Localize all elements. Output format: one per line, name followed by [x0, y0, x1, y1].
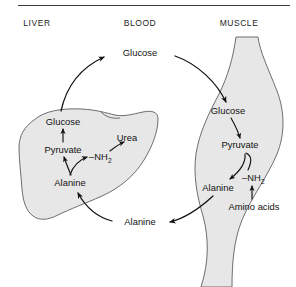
node-liver-glucose: Glucose [46, 116, 80, 127]
column-header-blood: BLOOD [124, 18, 157, 28]
muscle-shape [195, 37, 283, 287]
node-liver-urea: Urea [117, 132, 138, 143]
node-blood-alanine: Alanine [124, 216, 155, 227]
node-muscle-amino-acids: Amino acids [228, 201, 279, 212]
node-muscle-amino-group-subscript: 2 [261, 178, 265, 185]
node-liver-pyruvate: Pyruvate [45, 144, 82, 155]
node-muscle-amino-group-text: –NH [242, 172, 261, 183]
glucose-alanine-cycle-diagram: LIVER BLOOD MUSCLE Glucose Alanine Gluco… [0, 0, 296, 287]
node-liver-amino-group-text: –NH [89, 151, 108, 162]
flow-liver-glucose-to-blood [61, 57, 104, 111]
node-muscle-glucose: Glucose [211, 105, 245, 116]
node-liver-alanine: Alanine [54, 177, 85, 188]
column-header-liver: LIVER [23, 18, 50, 28]
node-muscle-alanine: Alanine [202, 182, 233, 193]
node-blood-glucose: Glucose [123, 47, 157, 58]
liver-shape [19, 109, 158, 219]
node-liver-amino-group-subscript: 2 [108, 157, 112, 164]
node-muscle-pyruvate: Pyruvate [222, 139, 259, 150]
column-header-muscle: MUSCLE [220, 18, 259, 28]
